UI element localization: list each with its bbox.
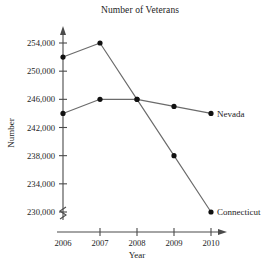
y-tick-label: 234,000	[27, 179, 55, 189]
data-point-nevada	[60, 111, 65, 116]
series-layer: ConnecticutNevada	[60, 40, 261, 217]
series-label-connecticut: Connecticut	[217, 207, 261, 217]
x-tick-label: 2010	[202, 238, 219, 248]
x-tick-label: 2009	[165, 238, 182, 248]
y-axis-arrowhead	[60, 26, 66, 35]
data-point-connecticut	[60, 54, 65, 59]
data-point-nevada	[171, 104, 176, 109]
y-tick-label: 238,000	[27, 151, 55, 161]
series-label-nevada: Nevada	[217, 109, 244, 119]
y-axis-ticks: 230,000234,000238,000242,000246,000250,0…	[27, 38, 67, 217]
series-line-connecticut	[63, 43, 211, 212]
y-axis-break-icon	[60, 207, 66, 219]
data-point-connecticut	[208, 209, 213, 214]
axis-lines	[57, 26, 227, 235]
x-axis-ticks: 20062007200820092010	[54, 228, 219, 248]
data-point-connecticut	[171, 153, 176, 158]
data-point-nevada	[97, 97, 102, 102]
data-point-nevada	[208, 111, 213, 116]
veterans-line-chart: Number of Veterans Number Year 230,00023…	[0, 0, 280, 272]
y-tick-label: 254,000	[27, 38, 55, 48]
data-point-connecticut	[97, 40, 102, 45]
y-tick-label: 242,000	[27, 123, 55, 133]
x-tick-label: 2008	[128, 238, 145, 248]
chart-plot-area: Number Year 230,000234,000238,000242,000…	[0, 0, 280, 272]
y-tick-label: 230,000	[27, 207, 55, 217]
x-tick-label: 2007	[91, 238, 109, 248]
y-tick-label: 246,000	[27, 94, 55, 104]
y-tick-label: 250,000	[27, 66, 55, 76]
x-axis-arrowhead	[218, 229, 227, 235]
x-axis-title: Year	[129, 250, 146, 260]
x-tick-label: 2006	[54, 238, 72, 248]
data-point-nevada	[134, 97, 139, 102]
y-axis-title: Number	[6, 118, 16, 148]
